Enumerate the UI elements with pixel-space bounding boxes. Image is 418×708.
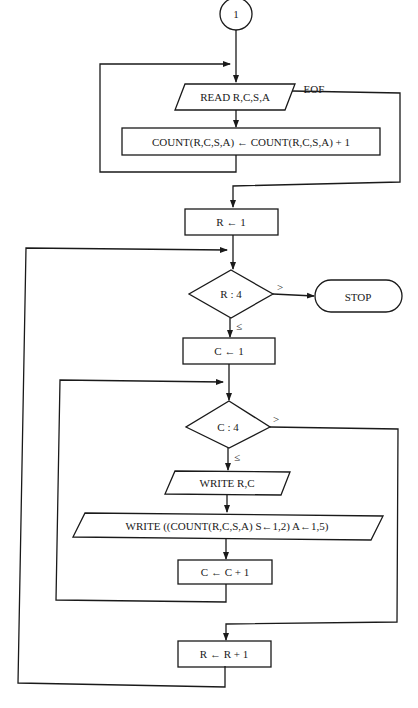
c-gt-label: > bbox=[273, 413, 279, 425]
connector-label: 1 bbox=[233, 8, 239, 20]
stop-label: STOP bbox=[345, 291, 372, 303]
r-le-label: ≤ bbox=[236, 320, 242, 332]
c-le-label: ≤ bbox=[234, 451, 240, 463]
eof-label: EOF bbox=[304, 83, 325, 95]
write-rc-label: WRITE R,C bbox=[200, 477, 255, 489]
r-test-label: R : 4 bbox=[220, 288, 241, 300]
c-init-label: C ← 1 bbox=[214, 345, 243, 357]
r-inc-label: R ← R + 1 bbox=[200, 648, 248, 660]
flowchart-canvas bbox=[0, 0, 418, 708]
r-init-label: R ← 1 bbox=[216, 216, 245, 228]
r-gt-label: > bbox=[277, 281, 283, 293]
read-label: READ R,C,S,A bbox=[200, 91, 270, 103]
c-test-label: C : 4 bbox=[217, 421, 238, 433]
count-label: COUNT(R,C,S,A) ← COUNT(R,C,S,A) + 1 bbox=[152, 136, 350, 148]
c-inc-label: C ← C + 1 bbox=[201, 566, 249, 578]
write-count-label: WRITE ((COUNT(R,C,S,A) S←1,2) A←1,5) bbox=[126, 520, 329, 532]
